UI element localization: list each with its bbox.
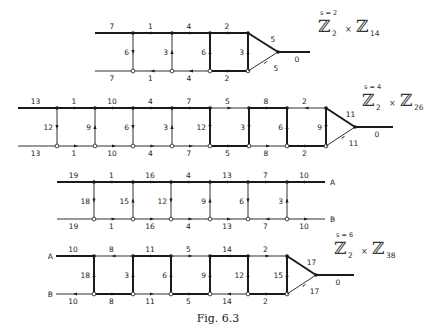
bottom-edge-label: 4 [186, 222, 191, 231]
rung-label: 6 [278, 123, 283, 132]
times-symbol: × [345, 25, 352, 34]
top-edge-label: 1 [109, 171, 114, 180]
arrow-down-icon [131, 50, 134, 54]
top-edge-label: 5 [186, 245, 191, 254]
arrow-left-icon [227, 292, 231, 295]
apex-node-dot [276, 50, 280, 54]
subscript-a: 2 [332, 29, 337, 38]
arrow-right-icon [189, 292, 193, 295]
arrow-left-icon [189, 69, 193, 72]
bottom-node-ring [208, 144, 212, 148]
bottom-edge-label: 19 [69, 222, 79, 231]
bottom-edge-label: 13 [222, 222, 232, 231]
bottom-node-ring [285, 217, 289, 221]
figure-caption: Fig. 6.3 [197, 312, 240, 325]
arrow-left-icon [73, 292, 77, 295]
arrow-right-icon [228, 106, 232, 109]
arrow-up-icon [285, 273, 288, 277]
top-node-dot [131, 180, 135, 184]
arrow-down-icon [92, 199, 95, 203]
times-symbol: × [389, 99, 396, 108]
top-edge-label: 16 [145, 171, 155, 180]
subscript-a: 2 [376, 103, 381, 112]
arrow-left-icon [266, 217, 270, 220]
top-edge-label: 1 [72, 97, 77, 106]
arrow-diagonal-icon [264, 61, 268, 65]
bottom-edge-label: 1 [109, 222, 114, 231]
top-node-dot [208, 180, 212, 184]
arrow-right-icon [227, 217, 231, 220]
top-edge-label: 19 [69, 171, 79, 180]
top-edge-label: 14 [222, 245, 232, 254]
arrow-right-icon [150, 254, 154, 257]
bottom-node-ring [208, 292, 212, 296]
output-label: 0 [375, 130, 380, 139]
top-edge-label: 2 [263, 245, 268, 254]
top-node-dot [92, 254, 96, 258]
arrow-right-icon [189, 217, 193, 220]
arrow-right-icon [189, 144, 193, 147]
bottom-node-ring [169, 217, 173, 221]
bottom-node-ring [169, 292, 173, 296]
arrow-up-icon [93, 125, 96, 129]
arrow-right-icon [227, 180, 231, 183]
diagram-d1: 771144226363550s = 2ℤ2×ℤ14 [95, 9, 380, 83]
bottom-node-ring [170, 144, 174, 148]
arrow-left-icon [227, 254, 231, 257]
top-node-dot [170, 31, 174, 35]
top-edge-label: 10 [68, 245, 78, 254]
top-edge-label: 10 [107, 97, 117, 106]
top-edge-label: 13 [222, 171, 232, 180]
diagram-d4: 10108811115514142218369121517170ABs = 6ℤ… [48, 231, 396, 306]
arrow-up-icon [131, 273, 134, 277]
bottom-node-ring [246, 217, 250, 221]
bottom-edge-label: 10 [299, 222, 309, 231]
arrow-right-icon [74, 106, 78, 109]
rung-label: 6 [124, 123, 129, 132]
arrow-down-icon [208, 125, 211, 129]
rung-label: 12 [234, 271, 244, 280]
bottom-node-ring [208, 69, 212, 73]
bottom-node-ring [55, 144, 59, 148]
bottom-node-ring [285, 144, 289, 148]
arrow-up-icon [169, 273, 172, 277]
arrow-down-icon [247, 125, 250, 129]
arrow-right-icon [150, 292, 154, 295]
bottom-node-ring [93, 144, 97, 148]
arrow-right-icon [266, 254, 270, 257]
arrow-down-icon [55, 125, 58, 129]
rung-label: 15 [273, 271, 283, 280]
triangle-bottom-label: 11 [349, 139, 359, 148]
bottom-node-ring [131, 69, 135, 73]
top-edge-label: 4 [148, 97, 153, 106]
integers-symbol-icon: ℤ [318, 16, 330, 36]
rung-label: 3 [163, 48, 168, 57]
integers-symbol-icon: ℤ [400, 90, 412, 110]
arrow-diagonal-icon [342, 136, 346, 140]
arrow-right-icon [151, 144, 155, 147]
bottom-edge-label: 5 [186, 297, 191, 306]
terminal-a-label: A [330, 178, 336, 187]
rung-label: 3 [239, 48, 244, 57]
bottom-node-ring [208, 217, 212, 221]
bottom-edge-label: 8 [109, 297, 114, 306]
rung-label: 12 [157, 197, 167, 206]
arrow-right-icon [189, 254, 193, 257]
top-node-dot [92, 180, 96, 184]
rung-label: 15 [119, 197, 129, 206]
bottom-edge-label: 4 [148, 149, 153, 158]
top-edge-label: 8 [264, 97, 269, 106]
arrow-right-icon [227, 69, 231, 72]
top-edge-label: 13 [31, 97, 41, 106]
top-node-dot [208, 254, 212, 258]
top-node-dot [169, 254, 173, 258]
terminal-a-label: A [48, 252, 54, 261]
triangle-top-label: 17 [307, 258, 317, 267]
arrow-left-icon [305, 106, 309, 109]
arrow-left-icon [112, 254, 116, 257]
top-edge-label: 5 [225, 97, 230, 106]
top-node-dot [246, 180, 250, 184]
arrow-right-icon [305, 144, 309, 147]
arrow-right-icon [112, 106, 116, 109]
diagram-d3: 1919111616441313771010181512963AB [57, 171, 336, 231]
